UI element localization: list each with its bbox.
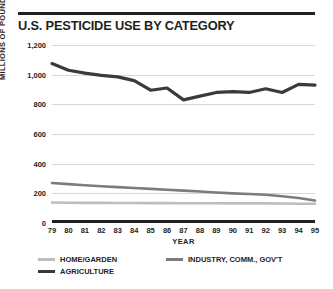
legend-label-agriculture: AGRICULTURE	[60, 267, 114, 276]
x-axis-line	[52, 220, 315, 223]
y-axis-labels: 02004006008001,0001,200	[0, 45, 50, 223]
legend-item-industry: INDUSTRY, COMM., GOV'T	[166, 255, 282, 264]
x-tick-label: 93	[278, 226, 286, 235]
series-line	[52, 203, 315, 204]
y-axis-title: MILLIONS OF POUNDS	[0, 0, 7, 80]
x-tick-label: 87	[179, 226, 187, 235]
x-tick-label: 94	[294, 226, 302, 235]
y-tick-label: 200	[33, 189, 46, 198]
legend-swatch-industry	[166, 258, 183, 261]
legend-row-2: AGRICULTURE	[38, 267, 328, 279]
series-lines	[52, 45, 315, 223]
x-tick-label: 80	[64, 226, 72, 235]
x-tick-label: 79	[48, 226, 56, 235]
x-axis-title: YEAR	[52, 237, 315, 246]
y-tick-label: 1,000	[27, 70, 46, 79]
x-tick-label: 84	[130, 226, 138, 235]
y-tick-label: 0	[42, 219, 46, 228]
x-tick-label: 88	[196, 226, 204, 235]
legend-label-industry: INDUSTRY, COMM., GOV'T	[188, 255, 282, 264]
x-tick-label: 81	[81, 226, 89, 235]
x-tick-label: 86	[163, 226, 171, 235]
legend-label-home-garden: HOME/GARDEN	[60, 255, 117, 264]
legend-swatch-agriculture	[38, 270, 55, 273]
header-rule	[18, 12, 315, 15]
legend-item-agriculture: AGRICULTURE	[38, 267, 114, 276]
y-tick-label: 600	[33, 130, 46, 139]
x-tick-label: 89	[212, 226, 220, 235]
x-tick-label: 95	[311, 226, 319, 235]
chart-page: U.S. PESTICIDE USE BY CATEGORY 020040060…	[0, 0, 333, 289]
x-tick-label: 90	[229, 226, 237, 235]
x-tick-label: 91	[245, 226, 253, 235]
chart-title: U.S. PESTICIDE USE BY CATEGORY	[18, 18, 234, 33]
y-tick-label: 800	[33, 100, 46, 109]
x-tick-label: 83	[114, 226, 122, 235]
x-tick-label: 92	[262, 226, 270, 235]
x-tick-label: 85	[146, 226, 154, 235]
series-line	[52, 183, 315, 201]
series-line	[52, 64, 315, 100]
legend-item-home-garden: HOME/GARDEN	[38, 255, 117, 264]
plot-area	[52, 45, 315, 223]
y-tick-label: 400	[33, 159, 46, 168]
legend-row-1: HOME/GARDEN INDUSTRY, COMM., GOV'T	[38, 255, 328, 267]
y-tick-label: 1,200	[27, 41, 46, 50]
chart-legend: HOME/GARDEN INDUSTRY, COMM., GOV'T AGRIC…	[38, 255, 328, 279]
legend-swatch-home-garden	[38, 258, 55, 261]
x-tick-label: 82	[97, 226, 105, 235]
